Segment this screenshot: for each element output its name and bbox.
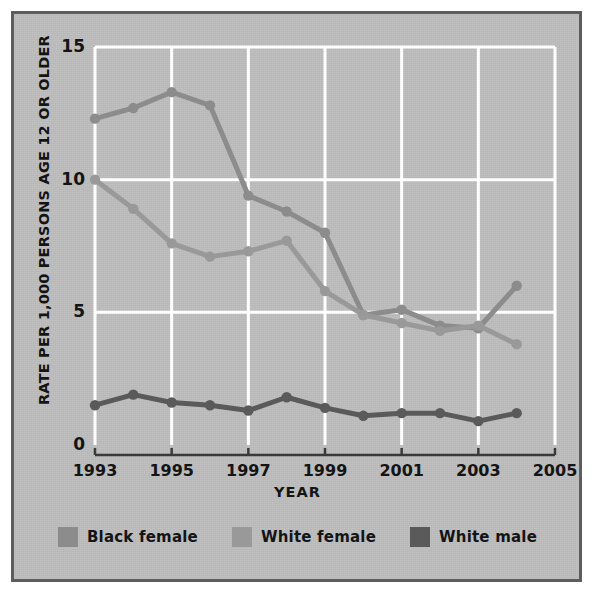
line-chart-plot	[0, 0, 595, 595]
data-point	[396, 318, 406, 328]
gridlines	[95, 47, 555, 445]
x-tick-label: 2003	[443, 461, 513, 480]
legend-item: Black female	[58, 527, 198, 547]
x-tick-label: 2005	[520, 461, 590, 480]
chart-legend: Black femaleWhite femaleWhite male	[0, 527, 595, 547]
x-tick-label: 1997	[213, 461, 283, 480]
y-tick-label: 10	[37, 169, 85, 189]
data-point	[243, 190, 253, 200]
x-tick-label: 1993	[60, 461, 130, 480]
data-point	[320, 403, 330, 413]
x-tick-label: 2001	[367, 461, 437, 480]
x-tick-label: 1999	[290, 461, 360, 480]
series-line-1	[95, 180, 517, 345]
data-point	[128, 389, 138, 399]
y-tick-label: 5	[37, 301, 85, 321]
data-point	[281, 235, 291, 245]
data-point	[473, 416, 483, 426]
data-point	[511, 281, 521, 291]
data-point	[396, 408, 406, 418]
data-point	[281, 206, 291, 216]
legend-item: White female	[232, 527, 376, 547]
data-point	[243, 246, 253, 256]
data-point	[320, 228, 330, 238]
data-point	[205, 251, 215, 261]
data-point	[166, 238, 176, 248]
y-tick-label: 0	[37, 434, 85, 454]
x-tick-label: 1995	[137, 461, 207, 480]
legend-label: Black female	[87, 528, 198, 546]
data-point	[473, 320, 483, 330]
data-point	[511, 339, 521, 349]
legend-swatch-icon	[58, 527, 78, 547]
data-point	[166, 87, 176, 97]
data-point	[435, 326, 445, 336]
data-point	[128, 103, 138, 113]
data-series-layer	[90, 87, 522, 426]
data-point	[90, 113, 100, 123]
legend-swatch-icon	[410, 527, 430, 547]
data-point	[511, 408, 521, 418]
data-point	[320, 286, 330, 296]
data-point	[243, 405, 253, 415]
series-line-2	[95, 395, 517, 422]
axis-lines	[95, 448, 555, 455]
data-point	[166, 397, 176, 407]
data-point	[435, 408, 445, 418]
data-point	[90, 174, 100, 184]
legend-label: White male	[439, 528, 537, 546]
data-point	[205, 400, 215, 410]
legend-label: White female	[261, 528, 376, 546]
x-axis-label: YEAR	[0, 484, 595, 500]
data-point	[205, 100, 215, 110]
y-tick-label: 15	[37, 36, 85, 56]
data-point	[358, 411, 368, 421]
data-point	[358, 310, 368, 320]
data-point	[281, 392, 291, 402]
data-point	[128, 204, 138, 214]
series-line-0	[95, 92, 517, 328]
legend-swatch-icon	[232, 527, 252, 547]
y-axis-label: RATE PER 1,000 PERSONS AGE 12 OR OLDER	[36, 10, 52, 430]
legend-item: White male	[410, 527, 537, 547]
data-point	[396, 304, 406, 314]
data-point	[90, 400, 100, 410]
chart-figure: RATE PER 1,000 PERSONS AGE 12 OR OLDER Y…	[0, 0, 595, 595]
